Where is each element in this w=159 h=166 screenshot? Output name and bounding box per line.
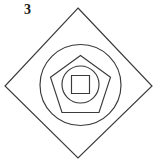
inner-circle-shape: [62, 66, 99, 103]
diamond-shape: [5, 8, 152, 158]
geometric-figure-canvas: [0, 0, 159, 166]
figure-container: 3: [0, 0, 159, 166]
outer-circle-shape: [40, 45, 121, 126]
inner-square-shape: [72, 76, 90, 94]
pentagon-shape: [51, 56, 111, 113]
